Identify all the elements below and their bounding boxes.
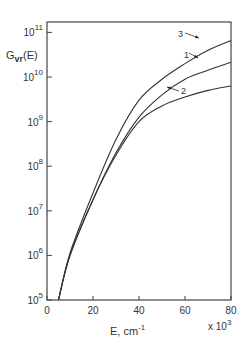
chart: 10510610710810910101011020406080Gvr(E)E,… — [0, 0, 250, 351]
curve-1 — [59, 62, 232, 300]
y-tick-label: 1011 — [24, 23, 44, 38]
plot-frame — [47, 22, 231, 300]
x-tick-label: 40 — [133, 305, 145, 316]
curve-2 — [59, 86, 232, 300]
x-tick-label: 20 — [87, 305, 99, 316]
x-multiplier-label: x 103 — [208, 318, 232, 332]
curve-annotation-3: 3 — [178, 29, 183, 39]
curve-3 — [59, 40, 232, 300]
y-tick-label: 106 — [27, 246, 43, 261]
curve-annotation-2: 2 — [181, 86, 186, 96]
y-tick-label: 105 — [27, 291, 43, 306]
x-axis-label: E, cm-1 — [110, 323, 146, 337]
y-tick-label: 109 — [27, 113, 43, 128]
y-axis-label: Gvr(E) — [6, 49, 38, 64]
y-tick-label: 108 — [27, 157, 43, 172]
x-tick-label: 60 — [179, 305, 191, 316]
x-tick-label: 0 — [44, 305, 50, 316]
y-tick-label: 107 — [27, 202, 43, 217]
curve-annotation-1: 1 — [184, 50, 189, 60]
y-tick-label: 1010 — [23, 68, 44, 83]
x-tick-label: 80 — [225, 305, 237, 316]
arrowhead-icon — [195, 35, 199, 38]
